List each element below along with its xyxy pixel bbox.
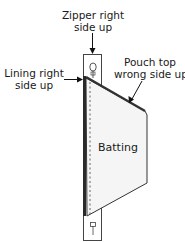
lining-label-line2: side up [0,79,68,91]
lining-strip [83,76,86,216]
pouch-top-arrow-icon [129,81,143,103]
lining-label: Lining right side up [0,67,68,91]
zipper-label-line1: Zipper right [58,9,128,21]
batting-label: Batting [98,142,134,154]
zipper-arrow-icon [90,33,96,54]
pouch-top-label-line2: wrong side up [114,68,185,80]
pouch-top-label: Pouch top wrong side up [114,56,185,80]
zipper-label: Zipper right side up [58,9,128,33]
pouch-top-label-line1: Pouch top [114,56,185,68]
pouch-assembly-diagram [0,0,185,242]
zipper-label-line2: side up [58,21,128,33]
lining-label-line1: Lining right [0,67,68,79]
